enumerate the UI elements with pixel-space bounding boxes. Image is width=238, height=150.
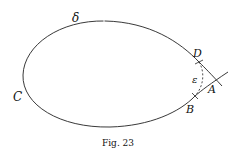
tick-d <box>195 60 203 64</box>
label-c: C <box>13 90 22 104</box>
label-delta: δ <box>72 11 79 25</box>
label-a: A <box>207 83 216 96</box>
figure-diagram: δ C D ε A B Fig. 23 <box>0 0 238 150</box>
label-epsilon: ε <box>192 74 197 85</box>
label-b: B <box>185 103 194 116</box>
loop-curve <box>23 21 199 127</box>
figure-caption: Fig. 23 <box>102 138 134 148</box>
label-d: D <box>192 47 202 60</box>
